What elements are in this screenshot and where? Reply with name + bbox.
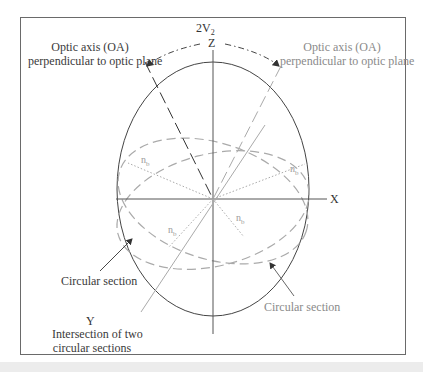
intersection-line2: circular sections [52, 341, 132, 355]
nb-label-upper-left: nb [141, 154, 150, 168]
optic-axis-left-label: Optic axis (OA) perpendicular to optic p… [28, 40, 152, 68]
x-axis-label: X [330, 192, 339, 206]
optic-axis-left-line1: Optic axis (OA) [28, 40, 152, 54]
circular-section-left-label: Circular section [61, 274, 137, 288]
circular-section-right-pointer [270, 263, 294, 296]
optic-axis-right-line2: perpendicular to optic plane [280, 54, 404, 68]
nb-lines [128, 163, 305, 248]
nb-label-lower-right: nb [236, 212, 245, 226]
z-axis-label: Z [208, 36, 215, 50]
optic-axis-right-label: Optic axis (OA) perpendicular to optic p… [280, 40, 404, 68]
nb-label-upper-right: nb [290, 163, 299, 177]
circular-section-right-label: Circular section [264, 300, 340, 314]
circular-section-left-pointer [100, 239, 132, 271]
2v-arc [225, 44, 279, 66]
optic-axis-right [213, 66, 281, 199]
intersection-label: Intersection of two circular sections [52, 327, 132, 355]
intersection-line1: Intersection of two [52, 327, 132, 341]
y-axis [141, 125, 265, 312]
optic-axis-right-line1: Optic axis (OA) [280, 40, 404, 54]
optic-axis-left-line2: perpendicular to optic plane [28, 54, 152, 68]
optic-axis-left [145, 62, 213, 199]
nb-label-lower-left: nb [168, 224, 177, 238]
y-axis-label: Y [86, 314, 95, 328]
